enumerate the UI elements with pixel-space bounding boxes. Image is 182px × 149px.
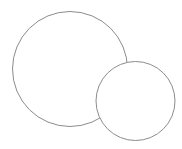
- diagram-canvas: [0, 0, 182, 149]
- small-circle: [96, 62, 175, 141]
